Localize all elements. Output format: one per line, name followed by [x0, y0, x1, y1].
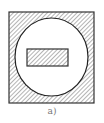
inner-rectangle — [27, 49, 68, 66]
figure-caption: a) — [0, 106, 104, 116]
cross-section-diagram — [0, 0, 104, 123]
